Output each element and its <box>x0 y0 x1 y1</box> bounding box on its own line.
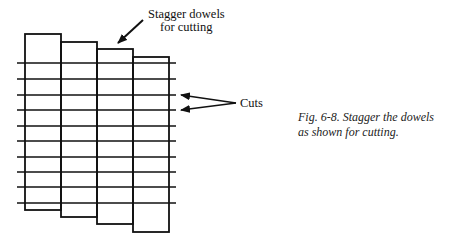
dowel-2 <box>61 42 97 217</box>
stagger-label-line1: Stagger dowels <box>148 7 225 21</box>
caption-line2: as shown for cutting. <box>298 125 453 140</box>
cuts-label: Cuts <box>240 96 263 110</box>
stagger-arrow-icon <box>118 20 143 43</box>
cut-arrow-lower-icon <box>181 103 236 110</box>
cut-arrow-upper-icon <box>181 95 236 103</box>
dowel-1 <box>25 34 61 210</box>
dowel-4 <box>133 57 169 232</box>
dowel-3 <box>97 49 133 224</box>
caption-line1: Fig. 6-8. Stagger the dowels <box>298 110 453 125</box>
stagger-label-line2: for cutting <box>160 20 213 34</box>
figure-caption: Fig. 6-8. Stagger the dowels as shown fo… <box>298 110 453 140</box>
